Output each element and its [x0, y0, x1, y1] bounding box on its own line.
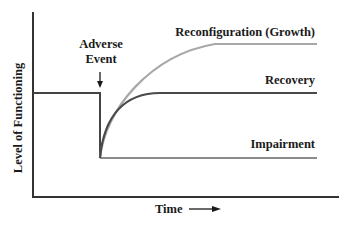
growth-label: Reconfiguration (Growth): [175, 25, 315, 39]
baseline-line: [33, 93, 100, 158]
event-label-line2: Event: [85, 52, 117, 66]
event-arrowhead-icon: [97, 81, 103, 88]
time-arrowhead-icon: [212, 206, 221, 212]
x-axis-label: Time: [155, 202, 183, 216]
recovery-label: Recovery: [265, 73, 316, 87]
event-label-line1: Adverse: [79, 37, 123, 51]
y-axis-label: Level of Functioning: [11, 62, 25, 173]
resilience-diagram: Adverse Event Reconfiguration (Growth) R…: [0, 0, 352, 225]
impairment-label: Impairment: [250, 137, 315, 151]
